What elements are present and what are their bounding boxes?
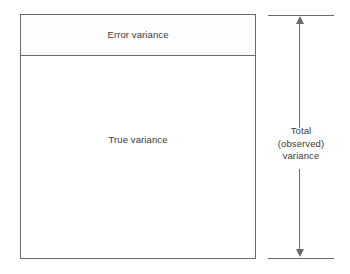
span-tick-bottom <box>268 258 334 259</box>
variance-decomposition-diagram: Error variance True variance Total (obse… <box>0 0 350 274</box>
error-variance-band: Error variance <box>21 15 255 56</box>
caption-line-2: (observed) <box>268 138 334 151</box>
true-variance-label: True variance <box>108 134 167 146</box>
arrow-stem-lower <box>299 169 300 249</box>
caption-line-1: Total <box>268 125 334 138</box>
error-variance-label: Error variance <box>107 29 168 41</box>
variance-partition-box: Error variance True variance <box>20 14 256 259</box>
total-variance-span-indicator: Total (observed) variance <box>268 14 334 259</box>
caption-line-3: variance <box>268 150 334 163</box>
true-variance-band: True variance <box>21 56 255 258</box>
total-variance-caption: Total (observed) variance <box>268 125 334 163</box>
arrowhead-down-icon <box>296 249 304 257</box>
arrow-stem-upper <box>299 23 300 128</box>
